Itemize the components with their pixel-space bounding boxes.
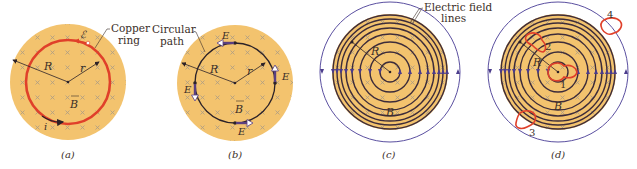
label-R: R (43, 60, 52, 73)
caption-d: (d) (551, 149, 565, 160)
label-B: B (234, 103, 243, 116)
label-emf: ℰ (80, 29, 87, 40)
label-R: R (532, 56, 541, 69)
callout-electric-field-line2: lines (441, 12, 466, 24)
radius-end-dot (351, 41, 354, 44)
caption-c: (c) (382, 149, 396, 160)
center-dot (389, 71, 392, 74)
label-loop-3: 3 (529, 127, 535, 138)
label-i: i (44, 121, 47, 132)
panel-c: R B Electric field lines (c) (320, 1, 493, 160)
label-loop-2: 2 (545, 41, 551, 52)
label-B: B (69, 98, 78, 111)
panel-b: R r B E E E E Circul (152, 23, 293, 160)
label-B: B (385, 106, 394, 119)
center-dot (234, 82, 237, 85)
radius-end-dot (519, 41, 522, 44)
callout-circular-path-line1: Circular (152, 23, 197, 35)
label-E-right: E (281, 71, 290, 82)
label-R: R (209, 63, 218, 76)
caption-a: (a) (61, 149, 75, 160)
center-dot (557, 71, 560, 74)
callout-copper-ring-line1: Copper (111, 22, 151, 34)
label-E-bottom: E (237, 126, 246, 137)
label-E-top: E (221, 30, 230, 41)
callout-circular-path-line2: path (160, 35, 184, 47)
label-R: R (370, 45, 379, 58)
callout-copper-ring-line2: ring (118, 34, 140, 46)
label-r: r (247, 65, 253, 78)
panel-a: R r B ℰ i Copper ring (a) (10, 22, 151, 160)
emf-tail-marker (86, 41, 90, 45)
center-dot (67, 81, 70, 84)
label-loop-1: 1 (560, 79, 566, 90)
label-B: B (553, 100, 562, 113)
label-E-left: E (183, 84, 192, 95)
caption-b: (b) (228, 149, 242, 160)
figure: R r B ℰ i Copper ring (a) R r B E (0, 0, 637, 169)
panel-d: R B 1 2 3 4 (d) (488, 2, 628, 160)
label-loop-4: 4 (607, 9, 613, 20)
label-r: r (80, 62, 86, 75)
